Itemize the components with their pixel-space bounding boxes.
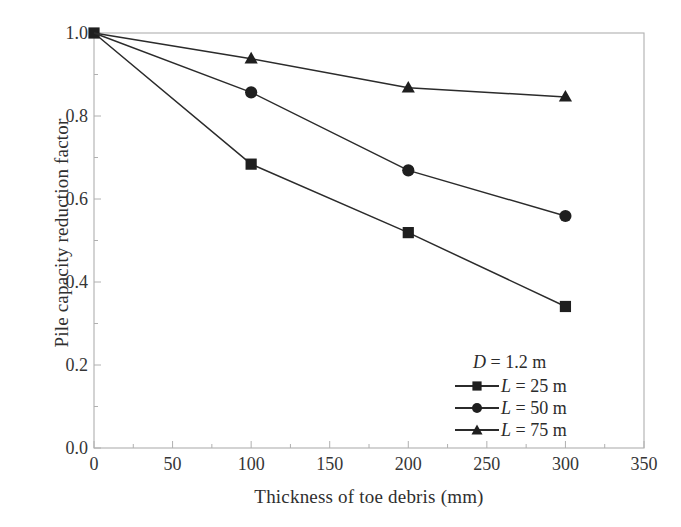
legend-item-label: L = 50 m bbox=[501, 398, 567, 419]
data-point-marker bbox=[402, 164, 414, 176]
triangle-marker-icon bbox=[455, 421, 499, 439]
plot-area bbox=[0, 0, 681, 527]
legend-item-1[interactable]: L = 50 m bbox=[455, 397, 567, 419]
data-point-marker bbox=[245, 86, 257, 98]
data-point-marker bbox=[559, 90, 572, 102]
series-line bbox=[94, 33, 565, 97]
chart-legend: D = 1.2 m L = 25 m L = 50 m L = 75 m bbox=[455, 352, 567, 441]
legend-note: D = 1.2 m bbox=[455, 352, 567, 375]
square-marker-icon bbox=[455, 377, 499, 395]
data-point-marker bbox=[559, 210, 571, 222]
legend-item-label: L = 75 m bbox=[501, 420, 567, 441]
series-0 bbox=[88, 27, 571, 312]
data-point-marker bbox=[560, 301, 571, 312]
legend-item-0[interactable]: L = 25 m bbox=[455, 375, 567, 397]
chart-figure: Pile capacity reduction factor Thickness… bbox=[0, 0, 681, 527]
data-point-marker bbox=[246, 159, 257, 170]
legend-item-label: L = 25 m bbox=[501, 376, 567, 397]
data-point-marker bbox=[403, 227, 414, 238]
legend-note-value: = 1.2 m bbox=[486, 352, 546, 372]
legend-item-2[interactable]: L = 75 m bbox=[455, 419, 567, 441]
series-2 bbox=[94, 33, 572, 102]
circle-marker-icon bbox=[455, 399, 499, 417]
legend-note-symbol: D bbox=[473, 352, 486, 372]
series-line bbox=[94, 33, 565, 216]
series-1 bbox=[94, 33, 572, 222]
series-line bbox=[94, 33, 565, 306]
